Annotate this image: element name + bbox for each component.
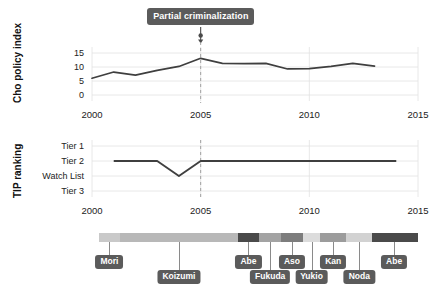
pm-label-fukuda[interactable]: Fukuda <box>250 270 290 284</box>
pm-label-mori[interactable]: Mori <box>95 255 123 269</box>
y-tick-label: Tier 1 <box>24 142 84 151</box>
y-tick-label: 5 <box>58 77 84 86</box>
y-tick-label: 0 <box>58 91 84 100</box>
pm-label-leader-line <box>359 242 360 270</box>
annotation-partial-criminalization: Partial criminalization <box>147 8 254 25</box>
pm-timeline-segment <box>281 233 303 242</box>
prime-minister-timeline-strip <box>0 233 431 242</box>
pm-label-leader-line <box>270 242 271 270</box>
x-tick-label: 2000 <box>72 110 112 120</box>
pm-label-leader-line <box>248 242 249 255</box>
figure-root: Partial criminalization Cho policy index… <box>0 0 431 292</box>
pm-label-noda[interactable]: Noda <box>344 270 375 284</box>
x-tick-label: 2010 <box>289 206 329 216</box>
pm-timeline-segment <box>346 233 372 242</box>
pm-timeline-segment <box>120 233 237 242</box>
x-tick-label: 2005 <box>181 206 221 216</box>
x-tick-label: 2015 <box>398 206 431 216</box>
pm-timeline-segment <box>320 233 346 242</box>
pm-timeline-segment <box>303 233 320 242</box>
x-tick-label: 2010 <box>289 110 329 120</box>
pm-label-aso[interactable]: Aso <box>279 255 305 269</box>
pm-label-leader-line <box>179 242 180 270</box>
pm-label-leader-line <box>312 242 313 270</box>
pm-label-kan[interactable]: Kan <box>320 255 346 269</box>
y-tick-label: Tier 2 <box>24 157 84 166</box>
y-tick-label: Tier 3 <box>24 187 84 196</box>
pm-label-leader-line <box>333 242 334 255</box>
pm-timeline-segment <box>99 233 121 242</box>
x-tick-label: 2015 <box>398 110 431 120</box>
pm-label-abe[interactable]: Abe <box>235 255 261 269</box>
pm-label-yukio[interactable]: Yukio <box>295 270 328 284</box>
pm-label-abe[interactable]: Abe <box>381 255 407 269</box>
y-tick-label: 10 <box>58 63 84 72</box>
y-axis-title-tip-ranking: TIP ranking <box>12 144 23 198</box>
pm-timeline-segment <box>238 233 260 242</box>
pm-label-leader-line <box>109 242 110 255</box>
pm-timeline-segment <box>372 233 418 242</box>
y-tick-label: 15 <box>58 49 84 58</box>
y-axis-title-cho-policy-index: Cho policy index <box>12 23 23 103</box>
pm-label-koizumi[interactable]: Koizumi <box>157 270 200 284</box>
pm-timeline-segment <box>259 233 281 242</box>
pm-label-leader-line <box>292 242 293 255</box>
y-tick-label: Watch List <box>24 172 84 181</box>
x-tick-label: 2005 <box>181 110 221 120</box>
x-tick-label: 2000 <box>72 206 112 216</box>
pm-label-leader-line <box>394 242 395 255</box>
